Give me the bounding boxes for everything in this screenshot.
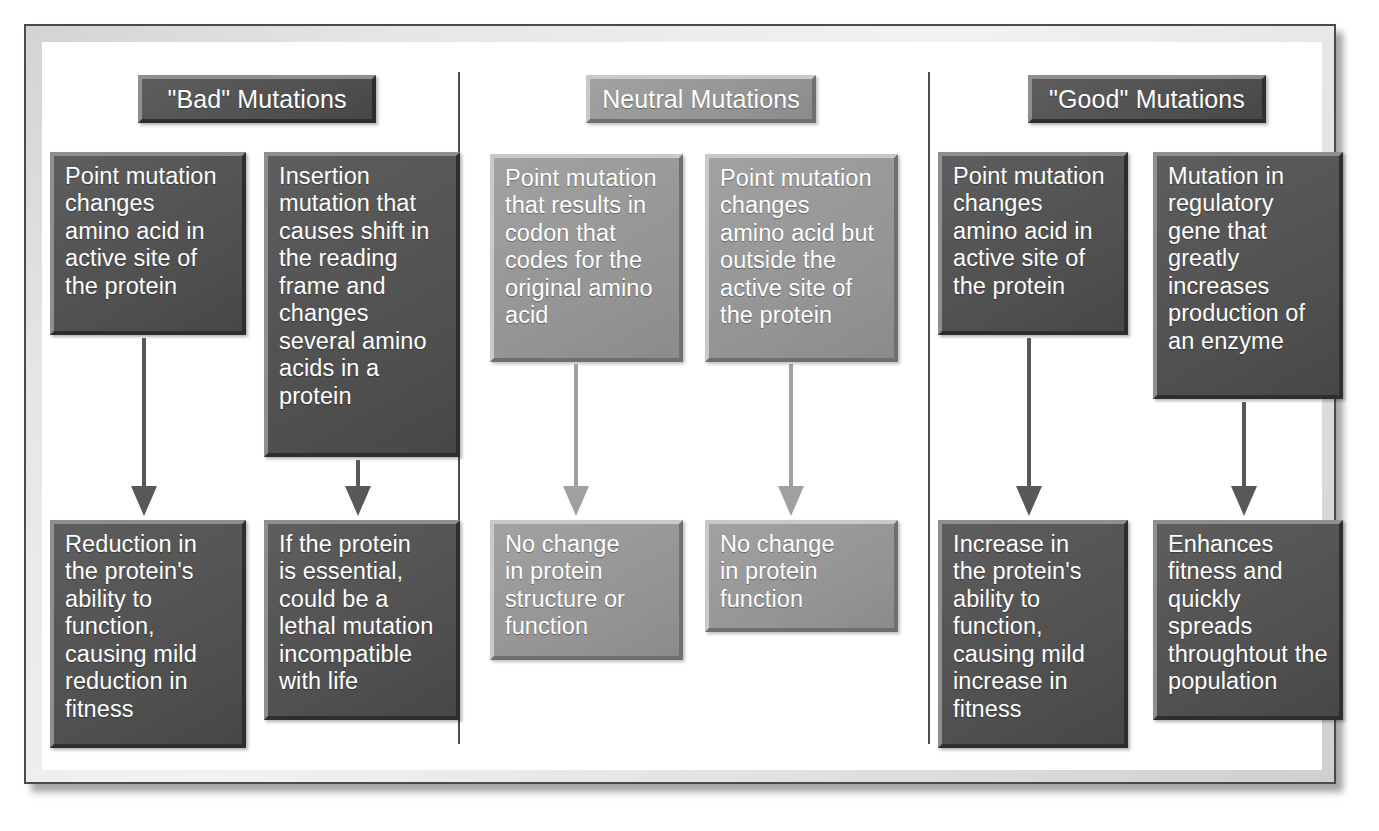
column-header-good: "Good" Mutations bbox=[1028, 75, 1266, 123]
diagram-canvas: "Bad" Mutations Point mutation changes a… bbox=[42, 42, 1322, 770]
arrow-bad-1-head bbox=[131, 486, 157, 516]
arrow-bad-2-head bbox=[345, 486, 371, 516]
column-divider-right bbox=[928, 72, 930, 744]
column-header-good-label: "Good" Mutations bbox=[1049, 87, 1245, 112]
effect-box-good-1: Increase in the protein's ability to fun… bbox=[938, 520, 1128, 748]
arrow-bad-2-shaft bbox=[356, 460, 360, 488]
effect-box-bad-2-text: If the protein is essential, could be a … bbox=[279, 531, 447, 696]
effect-box-bad-1-text: Reduction in the protein's ability to fu… bbox=[65, 531, 233, 723]
effect-box-neutral-1: No change in protein structure or functi… bbox=[490, 520, 683, 660]
cause-box-good-2: Mutation in regulatory gene that greatly… bbox=[1153, 152, 1343, 399]
cause-box-bad-1-text: Point mutation changes amino acid in act… bbox=[65, 163, 233, 300]
column-header-neutral: Neutral Mutations bbox=[586, 75, 816, 123]
cause-box-bad-2-text: Insertion mutation that causes shift in … bbox=[279, 163, 447, 410]
arrow-bad-1 bbox=[130, 338, 158, 516]
cause-box-good-1: Point mutation changes amino acid in act… bbox=[938, 152, 1128, 335]
effect-box-neutral-2: No change in protein function bbox=[705, 520, 898, 632]
cause-box-bad-1: Point mutation changes amino acid in act… bbox=[50, 152, 246, 335]
effect-box-good-2: Enhances fitness and quickly spreads thr… bbox=[1153, 520, 1343, 720]
diagram-screenshot: "Bad" Mutations Point mutation changes a… bbox=[0, 0, 1379, 831]
arrow-good-2-shaft bbox=[1242, 402, 1246, 488]
cause-box-good-1-text: Point mutation changes amino acid in act… bbox=[953, 163, 1115, 300]
effect-box-bad-1: Reduction in the protein's ability to fu… bbox=[50, 520, 246, 748]
outer-frame: "Bad" Mutations Point mutation changes a… bbox=[24, 24, 1336, 784]
effect-box-good-2-text: Enhances fitness and quickly spreads thr… bbox=[1168, 531, 1330, 696]
cause-box-neutral-1: Point mutation that results in codon tha… bbox=[490, 154, 683, 362]
arrow-good-1 bbox=[1015, 338, 1043, 516]
cause-box-good-2-text: Mutation in regulatory gene that greatly… bbox=[1168, 163, 1330, 355]
arrow-bad-1-shaft bbox=[142, 338, 146, 488]
cause-box-neutral-2-text: Point mutation changes amino acid but ou… bbox=[720, 165, 885, 330]
arrow-good-1-shaft bbox=[1027, 338, 1031, 488]
arrow-neutral-2-head bbox=[778, 486, 804, 516]
effect-box-neutral-1-text: No change in protein structure or functi… bbox=[505, 531, 670, 641]
arrow-neutral-2 bbox=[778, 364, 804, 516]
arrow-bad-2 bbox=[344, 460, 372, 516]
column-header-neutral-label: Neutral Mutations bbox=[602, 87, 800, 112]
arrow-good-1-head bbox=[1016, 486, 1042, 516]
cause-box-neutral-2: Point mutation changes amino acid but ou… bbox=[705, 154, 898, 362]
arrow-good-2-head bbox=[1231, 486, 1257, 516]
arrow-neutral-1 bbox=[563, 364, 589, 516]
column-header-bad: "Bad" Mutations bbox=[138, 75, 376, 123]
effect-box-neutral-2-text: No change in protein function bbox=[720, 531, 885, 613]
arrow-neutral-1-head bbox=[563, 486, 589, 516]
cause-box-neutral-1-text: Point mutation that results in codon tha… bbox=[505, 165, 670, 330]
column-header-bad-label: "Bad" Mutations bbox=[167, 87, 346, 112]
effect-box-bad-2: If the protein is essential, could be a … bbox=[264, 520, 460, 720]
arrow-neutral-1-shaft bbox=[574, 364, 578, 488]
arrow-neutral-2-shaft bbox=[789, 364, 793, 488]
arrow-good-2 bbox=[1230, 402, 1258, 516]
cause-box-bad-2: Insertion mutation that causes shift in … bbox=[264, 152, 460, 457]
effect-box-good-1-text: Increase in the protein's ability to fun… bbox=[953, 531, 1115, 723]
